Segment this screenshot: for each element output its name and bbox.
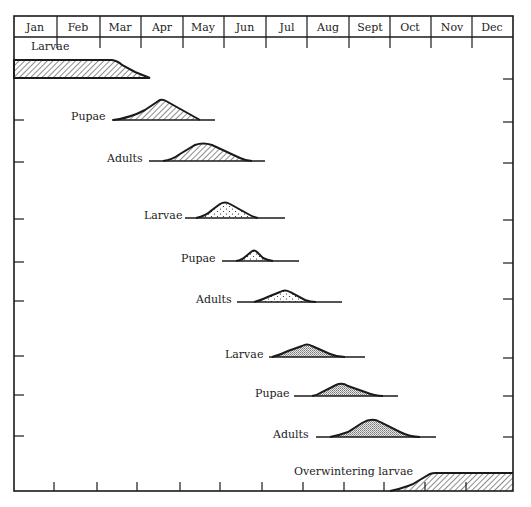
series-adults-gen2: Adults	[195, 291, 342, 307]
right-ticks	[503, 79, 513, 437]
label-pupae-gen3: Pupae	[255, 387, 290, 400]
month-label-jan: Jan	[25, 21, 44, 34]
label-larvae-gen3: Larvae	[225, 348, 263, 361]
month-label-may: May	[191, 21, 216, 34]
month-label-dec: Dec	[481, 21, 503, 34]
label-overwintering-larvae: Overwintering larvae	[294, 465, 413, 478]
month-label-oct: Oct	[400, 21, 420, 34]
label-larvae-gen2: Larvae	[144, 209, 182, 222]
series-adults-gen3: Adults	[272, 420, 436, 441]
month-label-nov: Nov	[441, 21, 464, 34]
month-label-feb: Feb	[68, 21, 89, 34]
series-pupae-gen3: Pupae	[255, 384, 398, 400]
month-label-jul: Jul	[278, 21, 294, 34]
life-cycle-chart: Jan Feb Mar Apr May Jun Jul Aug Sept Oct…	[0, 0, 531, 507]
month-label-jun: Jun	[235, 21, 255, 34]
series-larvae-gen3: Larvae	[225, 345, 365, 362]
label-pupae-gen2: Pupae	[181, 252, 216, 265]
chart-frame	[14, 16, 513, 491]
label-adults-gen2: Adults	[195, 293, 232, 306]
series-pupae-gen1: Pupae	[71, 100, 215, 123]
series-larvae-gen2: Larvae	[144, 203, 285, 223]
series-overwintering-larvae: Overwintering larvae	[294, 465, 513, 491]
left-ticks	[14, 120, 24, 436]
month-label-sept: Sept	[357, 21, 383, 34]
series-adults-gen1: Adults	[106, 144, 265, 166]
label-larvae-gen0: Larvae	[31, 40, 69, 53]
month-label-aug: Aug	[316, 21, 339, 34]
month-label-mar: Mar	[108, 21, 132, 34]
month-label-apr: Apr	[151, 21, 173, 34]
label-pupae-gen1: Pupae	[71, 110, 106, 123]
label-adults-gen1: Adults	[106, 152, 143, 165]
series-pupae-gen2: Pupae	[181, 251, 299, 266]
label-adults-gen3: Adults	[272, 428, 309, 441]
series-larvae-gen0: Larvae	[14, 40, 150, 78]
